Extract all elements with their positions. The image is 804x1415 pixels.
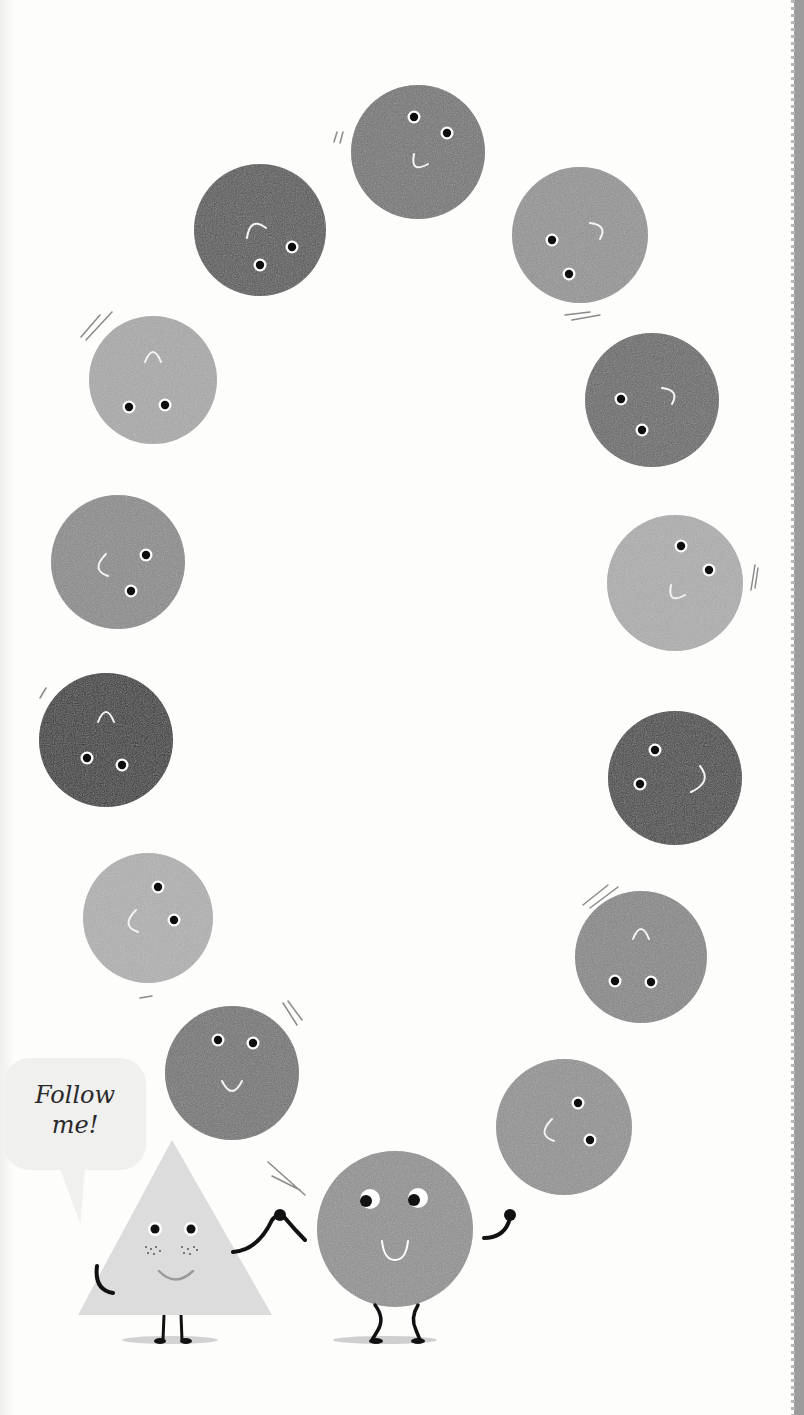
eye-pupil xyxy=(651,746,659,754)
eye-pupil xyxy=(548,236,556,244)
eye-pupil xyxy=(705,566,713,574)
illustration-stage: Follow me! xyxy=(0,0,804,1415)
circle-character-top xyxy=(351,85,485,219)
eye-pupil xyxy=(586,1136,594,1144)
circle-character-lower-right xyxy=(496,1059,632,1195)
eye-pupil xyxy=(574,1099,582,1107)
circle-character-lower-left xyxy=(165,1006,299,1140)
eye-pupil xyxy=(410,113,418,121)
speech-line-1: Follow xyxy=(4,1080,146,1110)
speech-bubble-text: Follow me! xyxy=(4,1080,146,1140)
circle-body xyxy=(83,853,213,983)
circle-character-upper-right xyxy=(512,167,648,303)
eye-pupil xyxy=(161,401,169,409)
triangle-character xyxy=(78,1140,305,1344)
eye-pupil xyxy=(256,261,264,269)
circle-character-right-dark xyxy=(585,333,719,467)
eye-pupil xyxy=(677,542,685,550)
eye-pupil xyxy=(636,780,644,788)
circle-body xyxy=(51,495,185,629)
eye-pupil xyxy=(118,761,126,769)
circle-body xyxy=(165,1006,299,1140)
circle-body xyxy=(194,164,326,296)
eye-pupil xyxy=(249,1039,257,1047)
main-circle-legs xyxy=(372,1305,420,1340)
motion-marks xyxy=(40,132,758,1195)
circle-character-right-light xyxy=(607,515,743,651)
eye-pupil xyxy=(83,754,91,762)
circle-character-right-darker xyxy=(608,711,742,845)
circle-character-left-black xyxy=(39,673,173,807)
circle-body xyxy=(607,515,743,651)
eye-pupil xyxy=(214,1036,222,1044)
eye-pupil xyxy=(125,403,133,411)
main-circle-body xyxy=(317,1151,473,1307)
eye-pupil xyxy=(617,395,625,403)
eye-pupil xyxy=(127,587,135,595)
circle-body xyxy=(351,85,485,219)
circle-body xyxy=(496,1059,632,1195)
eye-pupil xyxy=(142,551,150,559)
eye-pupil xyxy=(638,426,646,434)
circle-characters xyxy=(39,85,743,1195)
main-circle-arm xyxy=(484,1218,510,1238)
triangle-shadow xyxy=(122,1336,218,1344)
eye-pupil xyxy=(647,978,655,986)
circle-character-upper-left-dark xyxy=(194,164,326,296)
circle-loop-artwork xyxy=(0,0,804,1415)
eye-pupil xyxy=(443,129,451,137)
main-circle-character xyxy=(317,1151,516,1344)
circle-body xyxy=(585,333,719,467)
triangle-right-arm-high-five xyxy=(233,1215,305,1252)
speech-line-2: me! xyxy=(4,1110,146,1140)
circle-body xyxy=(89,316,217,444)
eye-pupil xyxy=(170,916,178,924)
eye-pupil xyxy=(611,977,619,985)
circle-character-left-medium xyxy=(51,495,185,629)
circle-character-left-light xyxy=(89,316,217,444)
eye-pupil xyxy=(288,243,296,251)
eye-pupil xyxy=(154,883,162,891)
high-five-hand xyxy=(274,1209,286,1221)
circle-body xyxy=(608,711,742,845)
circle-character-right-medium xyxy=(575,891,707,1023)
circle-body xyxy=(575,891,707,1023)
circle-character-left-dotted xyxy=(83,853,213,983)
circle-body xyxy=(512,167,648,303)
eye-pupil xyxy=(565,270,573,278)
circle-body xyxy=(39,673,173,807)
